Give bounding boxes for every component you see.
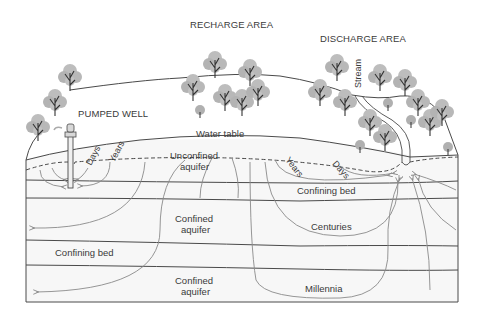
pumped-well-label: PUMPED WELL	[78, 108, 148, 119]
centuries-label: Centuries	[311, 221, 352, 232]
water-spray-icon	[54, 127, 62, 130]
confined-aquifer-upper-label-line2: aquifer	[181, 224, 210, 235]
unconfined-aquifer-label-line1: Unconfined	[170, 150, 218, 161]
confining-bed-lower-label: Confining bed	[55, 247, 114, 258]
confined-aquifer-lower-label-line1: Confined	[175, 275, 213, 286]
confining-bed-upper-label: Confining bed	[297, 185, 356, 196]
discharge-area-label: DISCHARGE AREA	[320, 33, 406, 44]
confined-aquifer-lower-label-line2: aquifer	[181, 286, 210, 297]
water-table-label: Water table	[196, 128, 244, 139]
stream-label: Stream	[353, 59, 363, 88]
millennia-label: Millennia	[305, 283, 343, 294]
unconfined-aquifer-label-line2: aquifer	[180, 161, 209, 172]
confined-aquifer-upper-label-line1: Confined	[175, 213, 213, 224]
recharge-area-label: RECHARGE AREA	[190, 19, 274, 30]
groundwater-diagram: RECHARGE AREA DISCHARGE AREA PUMPED WELL…	[0, 0, 483, 316]
trees-recharge-area	[181, 51, 270, 118]
